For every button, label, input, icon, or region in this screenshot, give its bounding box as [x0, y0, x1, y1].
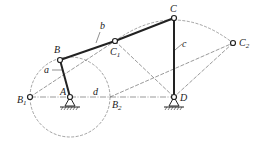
link-b-extension: [115, 18, 174, 41]
label-B1: B1: [17, 94, 27, 107]
label-C1: C1: [110, 46, 120, 59]
label-b: b: [100, 20, 105, 31]
line-C1-D: [115, 41, 174, 97]
diagram-canvas: B a A B1 d B2 b C1 C c C2 D: [0, 0, 258, 148]
label-d: d: [93, 86, 99, 97]
label-C: C: [170, 3, 177, 14]
joint-C2: [231, 41, 236, 46]
joint-C: [172, 16, 177, 21]
four-bar-linkage-diagram: B a A B1 d B2 b C1 C c C2 D: [0, 0, 258, 148]
joint-D: [172, 95, 177, 100]
line-B2-C2: [110, 43, 233, 97]
label-B: B: [54, 44, 60, 55]
label-a: a: [44, 64, 49, 75]
label-B2: B2: [112, 99, 122, 112]
line-C2-D: [174, 43, 233, 97]
leader-b: [96, 32, 100, 43]
joint-B: [58, 58, 63, 63]
label-C2: C2: [239, 37, 250, 50]
link-b: [60, 41, 115, 60]
label-c: c: [182, 38, 187, 49]
joint-C1: [113, 39, 118, 44]
leader-c: [175, 44, 182, 50]
label-A: A: [59, 86, 67, 97]
label-D: D: [179, 92, 188, 103]
joint-B1: [28, 95, 33, 100]
line-B1-C1: [30, 41, 115, 97]
joint-A: [68, 95, 73, 100]
